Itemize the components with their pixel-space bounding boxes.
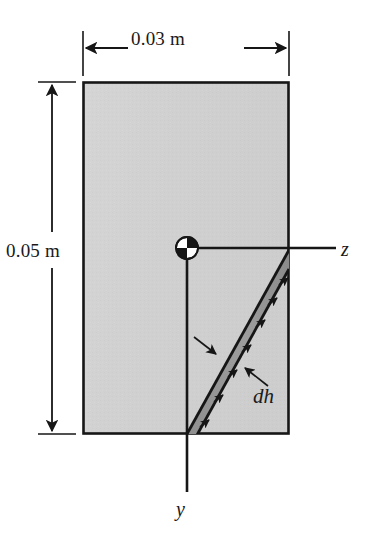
width-dimension — [83, 31, 289, 76]
height-dimension-label: 0.05 m — [6, 240, 60, 262]
cross-section-figure: 0.03 m 0.05 m z y dh — [0, 0, 369, 535]
width-dimension-label: 0.03 m — [131, 28, 185, 50]
z-axis-label: z — [341, 238, 349, 261]
y-axis-label: y — [176, 498, 185, 521]
origin-marker — [176, 237, 198, 259]
strip-thickness-label: dh — [253, 384, 274, 409]
diagram-canvas — [0, 0, 369, 535]
